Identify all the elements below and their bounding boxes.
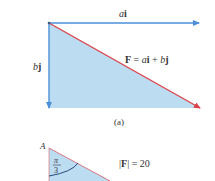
magnitude-label: |F| = 20 [119,158,150,169]
vector-diagram: ai bj F = ai + bj (a) A π 3 |F| = 20 [0,0,215,181]
label-resultant-equation: F = ai + bj [125,54,169,65]
label-ai: ai [119,8,127,19]
origin-point [48,22,51,25]
point-label-a: A [39,141,46,151]
figure-a: ai bj F = ai + bj (a) [33,8,200,127]
label-bj: bj [33,61,41,72]
caption-a: (a) [114,117,124,127]
angle-denominator: 3 [54,166,58,175]
figure-b: A π 3 |F| = 20 [39,141,150,181]
